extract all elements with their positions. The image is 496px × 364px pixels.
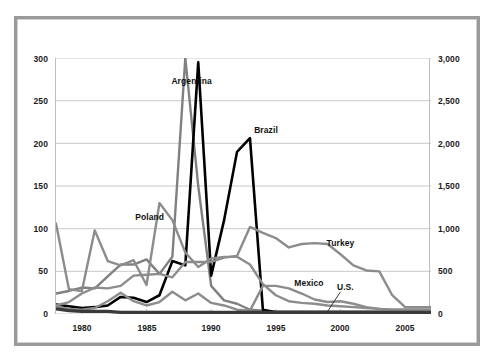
x-axis-tick-1980: 1980 (62, 324, 102, 333)
y-axis-left-tick-150: 150 (18, 182, 48, 191)
y-axis-left-tick-50: 50 (18, 267, 48, 276)
chart-figure: 300 250 200 150 100 50 0 3,000 2,500 2,0… (0, 0, 496, 364)
series-label-argentina: Argentina (171, 77, 212, 86)
series-line-turkey (56, 227, 431, 307)
y-axis-left-tick-100: 100 (18, 225, 48, 234)
x-axis-tick-1985: 1985 (127, 324, 167, 333)
series-line-brazil (56, 62, 431, 313)
y-axis-right-tick-0: 0 (438, 310, 478, 319)
series-label-poland: Poland (135, 213, 164, 222)
y-axis-right-tick-2000: 2,000 (438, 140, 478, 149)
y-axis-left-tick-0: 0 (18, 310, 48, 319)
x-axis-tick-2005: 2005 (385, 324, 425, 333)
y-axis-right-tick-3000: 3,000 (438, 55, 478, 64)
y-axis-left-tick-250: 250 (18, 97, 48, 106)
x-axis-tick-1995: 1995 (256, 324, 296, 333)
series-canvas (56, 58, 431, 314)
plot-area (55, 58, 430, 314)
y-axis-right-tick-2500: 2,500 (438, 97, 478, 106)
y-axis-left-tick-200: 200 (18, 140, 48, 149)
series-label-brazil: Brazil (254, 126, 278, 135)
x-axis-tick-2000: 2000 (320, 324, 360, 333)
series-label-us: U.S. (337, 283, 354, 292)
y-axis-right-tick-500: 500 (438, 267, 478, 276)
series-label-mexico: Mexico (294, 279, 323, 288)
series-line-poland (56, 203, 431, 310)
y-axis-right-tick-1500: 1,500 (438, 182, 478, 191)
y-axis-right-tick-1000: 1,000 (438, 225, 478, 234)
series-label-turkey: Turkey (327, 239, 355, 248)
series-line-argentina (56, 58, 431, 311)
x-axis-tick-1990: 1990 (191, 324, 231, 333)
y-axis-left-tick-300: 300 (18, 55, 48, 64)
